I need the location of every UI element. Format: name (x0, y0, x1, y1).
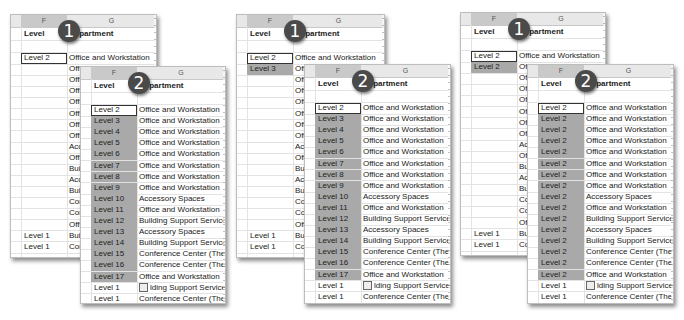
department-cell[interactable]: Office and Workstation (361, 125, 450, 136)
department-header[interactable]: Department (361, 79, 450, 90)
level-cell[interactable] (21, 120, 67, 131)
level-cell[interactable]: Level 2 (471, 51, 517, 62)
level-cell[interactable] (471, 95, 517, 106)
level-cell[interactable]: Level 6 (91, 149, 137, 160)
level-cell[interactable]: Level 1 (471, 229, 517, 240)
department-cell[interactable]: Conference Center (The fron (361, 258, 450, 269)
level-cell[interactable] (21, 75, 67, 86)
department-cell[interactable]: Conference Center (The fron (584, 292, 673, 303)
level-cell[interactable]: Level 1 (91, 283, 137, 294)
department-cell[interactable]: Building Support Services Sp (584, 214, 673, 225)
level-cell[interactable]: Level 5 (91, 138, 137, 149)
level-cell[interactable] (247, 142, 293, 153)
level-cell[interactable]: Level 4 (91, 127, 137, 138)
level-cell[interactable] (471, 73, 517, 84)
level-cell[interactable]: Level 17 (315, 270, 361, 281)
department-cell[interactable]: Office and Workstation (584, 114, 673, 125)
department-cell[interactable]: Conference Center (The fron (137, 260, 225, 271)
level-cell[interactable] (247, 86, 293, 97)
level-cell[interactable] (247, 175, 293, 186)
department-cell[interactable]: Office and Workstation (137, 172, 225, 183)
level-cell[interactable]: Level 2 (538, 258, 584, 269)
paste-options-icon[interactable] (139, 283, 148, 292)
level-cell[interactable] (247, 164, 293, 175)
level-cell[interactable] (471, 162, 517, 173)
level-cell[interactable]: Level 2 (315, 103, 361, 114)
department-cell[interactable]: Office and Workstation (361, 114, 450, 125)
level-cell[interactable]: Level 1 (91, 294, 137, 304)
department-cell[interactable]: Office and Workstation (361, 103, 450, 114)
department-cell[interactable]: Accessory Spaces (584, 225, 673, 236)
level-cell[interactable]: Level 2 (538, 125, 584, 136)
level-cell[interactable]: Level 7 (91, 161, 137, 172)
level-cell[interactable] (471, 218, 517, 229)
level-cell[interactable]: Level 8 (315, 170, 361, 181)
level-cell[interactable] (247, 97, 293, 108)
level-cell[interactable]: Level 1 (538, 281, 584, 292)
level-cell[interactable] (247, 186, 293, 197)
level-cell[interactable] (247, 120, 293, 131)
department-cell[interactable]: Office and Workstation (584, 136, 673, 147)
level-cell[interactable]: Level 2 (538, 170, 584, 181)
department-cell[interactable]: Office and Workstation (137, 205, 225, 216)
department-cell[interactable]: Building Support Services Sp (361, 236, 450, 247)
department-cell[interactable]: lding Support Services Sp (137, 283, 225, 294)
department-header[interactable]: Department (67, 29, 156, 40)
department-cell[interactable]: Office and Workstation (361, 270, 450, 281)
level-cell[interactable]: Level 3 (91, 116, 137, 127)
level-cell[interactable]: Level 2 (538, 181, 584, 192)
department-cell[interactable]: Office and Workstation (584, 159, 673, 170)
level-cell[interactable] (471, 195, 517, 206)
department-cell[interactable]: Office and Workstation (361, 159, 450, 170)
level-cell[interactable]: Level 1 (21, 242, 67, 253)
department-cell[interactable]: Office and Workstation (584, 147, 673, 158)
level-cell[interactable] (471, 140, 517, 151)
department-cell[interactable]: Building Support Services Sp (584, 236, 673, 247)
level-cell[interactable] (21, 175, 67, 186)
level-cell[interactable]: Level 10 (315, 192, 361, 203)
department-cell[interactable]: Conference Center (The fron (584, 258, 673, 269)
department-cell[interactable]: Accessory Spaces (584, 192, 673, 203)
department-cell[interactable]: Office and Workstation (137, 272, 225, 283)
department-header[interactable]: Department (517, 27, 605, 38)
department-cell[interactable]: Building Support Services Sp (137, 238, 225, 249)
level-cell[interactable] (247, 153, 293, 164)
level-cell[interactable]: Level 14 (91, 238, 137, 249)
level-cell[interactable]: Level 6 (315, 147, 361, 158)
level-cell[interactable]: Level 9 (91, 183, 137, 194)
level-cell[interactable]: Level 2 (538, 225, 584, 236)
department-cell[interactable]: Accessory Spaces (361, 225, 450, 236)
column-header-g[interactable]: G (517, 13, 605, 25)
level-cell[interactable]: Level 2 (538, 103, 584, 114)
department-cell[interactable]: Conference Center (The fron (361, 292, 450, 303)
level-cell[interactable]: Level 1 (471, 240, 517, 251)
level-cell[interactable]: Level 13 (315, 225, 361, 236)
level-cell[interactable]: Level 2 (538, 136, 584, 147)
level-cell[interactable] (21, 131, 67, 142)
department-cell[interactable]: Office and Workstation (137, 127, 225, 138)
level-cell[interactable] (21, 64, 67, 75)
department-cell[interactable]: Office and Workstation (584, 270, 673, 281)
level-cell[interactable] (247, 197, 293, 208)
level-cell[interactable] (21, 109, 67, 120)
department-cell[interactable]: Office and Workstation (293, 53, 384, 64)
department-cell[interactable]: Office and Workstation (361, 181, 450, 192)
level-cell[interactable]: Level 11 (91, 205, 137, 216)
level-cell[interactable]: Level 15 (315, 247, 361, 258)
level-cell[interactable] (471, 173, 517, 184)
department-cell[interactable]: Conference Center (The fron (584, 247, 673, 258)
level-cell[interactable]: Level 9 (315, 181, 361, 192)
level-cell[interactable]: Level 1 (247, 231, 293, 242)
level-cell[interactable]: Level 1 (315, 292, 361, 303)
department-cell[interactable]: Conference Center (The fron (137, 294, 225, 304)
department-cell[interactable]: Accessory Spaces (137, 194, 225, 205)
level-cell[interactable] (471, 184, 517, 195)
paste-options-icon[interactable] (363, 281, 372, 290)
department-header[interactable]: Department (293, 29, 384, 40)
level-cell[interactable]: Level 2 (538, 247, 584, 258)
department-cell[interactable]: Office and Workstation (361, 170, 450, 181)
department-cell[interactable]: Conference Center (The fron (137, 249, 225, 260)
level-cell[interactable]: Level 2 (21, 53, 67, 64)
level-cell[interactable] (21, 197, 67, 208)
level-cell[interactable]: Level 3 (247, 64, 293, 75)
